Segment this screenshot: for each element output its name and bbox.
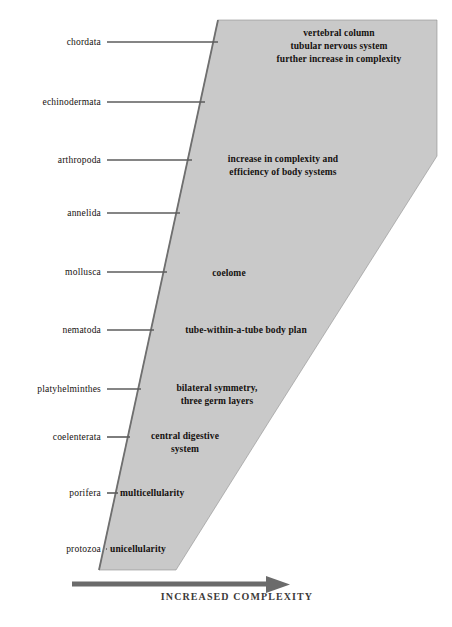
tube-within-a-tube-block-line: tube-within-a-tube body plan: [156, 324, 336, 337]
phylum-label-annelida: annelida: [0, 208, 101, 218]
axis-caption-text: INCREASED COMPLEXITY: [139, 591, 313, 602]
phylum-label-coelenterata: coelenterata: [0, 432, 101, 442]
increase-complexity-block-line: efficiency of body systems: [185, 166, 381, 179]
phylum-label-arthropoda: arthropoda: [0, 155, 101, 165]
unicellularity-block: unicellularity: [110, 543, 220, 556]
coelome-block: coelome: [169, 267, 289, 280]
increase-complexity-block-line: increase in complexity and: [185, 153, 381, 166]
vertebral-column-block-line: further increase in complexity: [241, 53, 437, 66]
phylum-label-echinodermata: echinodermata: [0, 97, 101, 107]
vertebral-column-block: vertebral columntubular nervous systemfu…: [241, 27, 437, 66]
vertebral-column-block-line: tubular nervous system: [241, 40, 437, 53]
central-digestive-block-line: central digestive: [130, 430, 240, 443]
bilateral-symmetry-block-line: three germ layers: [142, 395, 292, 408]
complexity-wedge-diagram: chordataechinodermataarthropodaannelidam…: [0, 0, 452, 627]
phylum-label-porifera: porifera: [0, 488, 101, 498]
bilateral-symmetry-block-line: bilateral symmetry,: [142, 382, 292, 395]
tube-within-a-tube-block: tube-within-a-tube body plan: [156, 324, 336, 337]
axis-caption: INCREASED COMPLEXITY: [0, 591, 452, 602]
phylum-label-protozoa: protozoa: [0, 544, 101, 554]
coelome-block-line: coelome: [169, 267, 289, 280]
vertebral-column-block-line: vertebral column: [241, 27, 437, 40]
wedge-graphic: [0, 0, 452, 627]
multicellularity-block: multicellularity: [120, 487, 230, 500]
multicellularity-block-line: multicellularity: [120, 487, 230, 500]
phylum-label-platyhelminthes: platyhelminthes: [0, 384, 101, 394]
increase-complexity-block: increase in complexity andefficiency of …: [185, 153, 381, 179]
unicellularity-block-line: unicellularity: [110, 543, 220, 556]
phylum-label-chordata: chordata: [0, 37, 101, 47]
phylum-label-nematoda: nematoda: [0, 325, 101, 335]
phylum-label-mollusca: mollusca: [0, 267, 101, 277]
bilateral-symmetry-block: bilateral symmetry,three germ layers: [142, 382, 292, 408]
central-digestive-block: central digestivesystem: [130, 430, 240, 456]
central-digestive-block-line: system: [130, 443, 240, 456]
